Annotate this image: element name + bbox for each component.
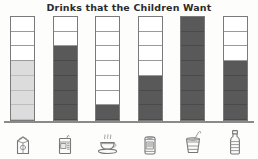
bar-cell-filled bbox=[224, 105, 247, 120]
bar-cell-filled bbox=[139, 105, 162, 120]
bar-cell-filled bbox=[181, 91, 204, 106]
teacup-icon bbox=[95, 131, 120, 157]
bar-cell-filled bbox=[181, 46, 204, 61]
bar-cell-filled bbox=[11, 105, 34, 120]
bar-cell-filled bbox=[54, 105, 77, 120]
category-label-soda-can bbox=[138, 126, 163, 157]
category-icon-row bbox=[10, 126, 248, 157]
chart-title: Drinks that the Children Want bbox=[0, 2, 258, 13]
bar-cell-filled bbox=[96, 105, 119, 120]
bar-column-cup-of-tea[interactable] bbox=[95, 16, 120, 121]
bar-cell bbox=[11, 46, 34, 61]
bar-cell-filled bbox=[54, 61, 77, 76]
bar-cell-filled bbox=[224, 91, 247, 106]
bar-cell-filled bbox=[54, 46, 77, 61]
bar-column-juice-box[interactable] bbox=[53, 16, 78, 121]
water-bottle-icon bbox=[225, 129, 245, 157]
bar-cell-filled bbox=[181, 17, 204, 32]
milk-carton-icon bbox=[11, 131, 35, 157]
bar-cell-filled bbox=[11, 91, 34, 106]
bar-cell bbox=[96, 76, 119, 91]
category-label-juice-box bbox=[53, 126, 78, 157]
bar-column-milkshake-cup[interactable] bbox=[180, 16, 205, 121]
bar-cell bbox=[139, 17, 162, 32]
bar-cell bbox=[96, 91, 119, 106]
bar-cell bbox=[96, 17, 119, 32]
bar-cell bbox=[54, 32, 77, 47]
bar-cell-filled bbox=[139, 76, 162, 91]
bar-cell-filled bbox=[181, 61, 204, 76]
soda-can-icon bbox=[139, 131, 161, 157]
bar-cell bbox=[224, 17, 247, 32]
bar-cell-filled bbox=[224, 76, 247, 91]
bar-cell bbox=[96, 32, 119, 47]
bar-cell-filled bbox=[54, 91, 77, 106]
bar-cell-filled bbox=[54, 76, 77, 91]
bar-cell bbox=[11, 17, 34, 32]
juice-box-icon bbox=[53, 131, 77, 157]
bar-cell-filled bbox=[11, 76, 34, 91]
bar-cell-filled bbox=[224, 61, 247, 76]
bar-cell bbox=[224, 46, 247, 61]
bar-cell bbox=[54, 17, 77, 32]
category-label-milk-carton bbox=[10, 126, 35, 157]
chart-screenshot: Drinks that the Children Want bbox=[0, 0, 258, 159]
bar-cell-filled bbox=[181, 32, 204, 47]
bar-cell bbox=[224, 32, 247, 47]
bar-cell-filled bbox=[139, 91, 162, 106]
bar-cell-filled bbox=[181, 76, 204, 91]
bar-cell bbox=[96, 61, 119, 76]
bar-cell bbox=[139, 46, 162, 61]
category-label-water-bottle bbox=[223, 126, 248, 157]
bar-column-water-bottle[interactable] bbox=[223, 16, 248, 121]
bar-column-soda-can[interactable] bbox=[138, 16, 163, 121]
category-label-cup-of-tea bbox=[95, 126, 120, 157]
bar-cell bbox=[96, 46, 119, 61]
bar-cell-filled bbox=[11, 61, 34, 76]
cup-with-straw-icon bbox=[181, 129, 205, 157]
bar-cell bbox=[139, 61, 162, 76]
x-axis-line bbox=[4, 121, 254, 123]
bar-column-milk-carton[interactable] bbox=[10, 16, 35, 121]
category-label-milkshake-cup bbox=[180, 126, 205, 157]
bar-chart-plot-area bbox=[10, 16, 248, 121]
bar-cell bbox=[139, 32, 162, 47]
bar-cell bbox=[11, 32, 34, 47]
bar-cell-filled bbox=[181, 105, 204, 120]
